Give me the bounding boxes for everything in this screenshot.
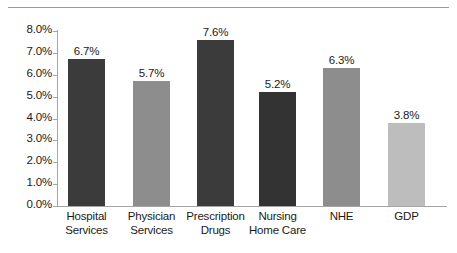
y-axis-tick-label: 0.0% — [27, 198, 52, 210]
bar — [133, 81, 170, 206]
bar — [388, 123, 425, 206]
y-axis-tick-mark — [53, 140, 57, 141]
y-axis-tick-label: 1.0% — [27, 176, 52, 188]
y-axis-tick-mark — [53, 75, 57, 76]
y-axis-tick-mark — [53, 162, 57, 163]
y-axis-tick-label: 6.0% — [27, 67, 52, 79]
chart-figure: 0.0%1.0%2.0%3.0%4.0%5.0%6.0%7.0%8.0% 6.7… — [0, 0, 457, 253]
bar — [68, 59, 105, 206]
y-axis-tick-label: 8.0% — [27, 23, 52, 35]
category-label-line: GDP — [362, 210, 452, 224]
bar-value-label: 5.7% — [139, 67, 164, 79]
bar-column: 3.8% — [388, 123, 425, 206]
y-axis-tick-mark — [53, 119, 57, 120]
bar-column: 6.3% — [323, 68, 360, 206]
y-axis-tick-mark — [53, 31, 57, 32]
y-axis-tick-label: 2.0% — [27, 154, 52, 166]
x-axis-baseline — [57, 206, 447, 207]
y-axis-tick-mark — [53, 53, 57, 54]
y-axis-tick-label: 4.0% — [27, 111, 52, 123]
y-axis-tick-label: 3.0% — [27, 132, 52, 144]
bar-column: 6.7% — [68, 59, 105, 206]
bar — [197, 40, 234, 206]
bar-column: 7.6% — [197, 40, 234, 206]
bar-value-label: 3.8% — [394, 109, 419, 121]
category-label: GDP — [362, 210, 452, 224]
y-axis-line — [57, 30, 58, 207]
bar-column: 5.7% — [133, 81, 170, 206]
bar-value-label: 6.7% — [74, 45, 99, 57]
bar-value-label: 5.2% — [265, 78, 290, 90]
y-axis-tick-label: 5.0% — [27, 89, 52, 101]
y-axis-tick-label: 7.0% — [27, 45, 52, 57]
plot-area: 0.0%1.0%2.0%3.0%4.0%5.0%6.0%7.0%8.0% 6.7… — [0, 0, 457, 253]
bar-value-label: 7.6% — [203, 26, 228, 38]
bar — [323, 68, 360, 206]
y-axis-tick-mark — [53, 97, 57, 98]
bar-column: 5.2% — [259, 92, 296, 206]
bar-value-label: 6.3% — [329, 54, 354, 66]
bar — [259, 92, 296, 206]
category-label-line: Home Care — [233, 224, 323, 238]
y-axis-tick-mark — [53, 206, 57, 207]
y-axis-tick-mark — [53, 184, 57, 185]
